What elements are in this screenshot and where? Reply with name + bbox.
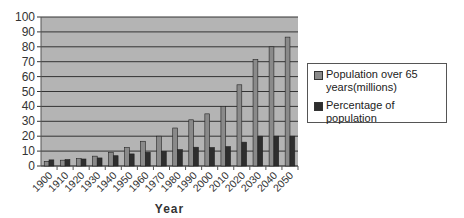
bar [113, 156, 118, 166]
y-tick-label: 90 [22, 25, 36, 39]
y-tick-label: 10 [22, 144, 36, 158]
y-tick-label: 70 [22, 55, 36, 69]
bar [237, 85, 242, 166]
bar [258, 136, 263, 166]
bar [194, 147, 199, 166]
bar [44, 161, 49, 166]
bar [125, 148, 130, 166]
bar [60, 160, 65, 166]
legend-swatch-population [314, 71, 323, 80]
bar [274, 136, 279, 166]
bar [145, 152, 150, 166]
y-tick-label: 80 [22, 40, 36, 54]
legend-label-percentage: Percentage of population [326, 99, 442, 125]
bar [129, 154, 134, 166]
bar [161, 151, 166, 166]
bar [290, 136, 295, 166]
bar [76, 159, 81, 166]
bar [97, 158, 102, 166]
legend-item-percentage: Percentage of population [312, 99, 442, 125]
legend-swatch-percentage [314, 102, 323, 111]
y-tick-label: 20 [22, 129, 36, 143]
y-tick-label: 40 [22, 99, 36, 113]
bar [141, 141, 146, 166]
legend-label-population: Population over 65 years(millions) [326, 68, 442, 94]
y-tick-label: 30 [22, 114, 36, 128]
bar [92, 156, 97, 166]
bar [210, 148, 215, 166]
bar [49, 160, 54, 166]
y-tick-label: 100 [15, 10, 35, 24]
bar [242, 142, 247, 166]
bar [205, 114, 210, 166]
bar [157, 136, 162, 166]
bar [189, 120, 194, 166]
bar [269, 47, 274, 166]
bar [81, 159, 86, 166]
bar [178, 150, 183, 166]
bar [226, 147, 231, 166]
bar [285, 37, 290, 166]
bar [108, 153, 113, 166]
bar [253, 59, 258, 166]
y-tick-label: 60 [22, 70, 36, 84]
y-tick-label: 0 [28, 159, 35, 173]
bar [173, 128, 178, 166]
legend-item-population: Population over 65 years(millions) [312, 68, 442, 94]
bar [65, 160, 70, 166]
y-tick-label: 50 [22, 85, 36, 99]
bar [221, 106, 226, 166]
chart-legend: Population over 65 years(millions) Perce… [307, 63, 447, 123]
x-axis-title: Year [155, 202, 184, 216]
